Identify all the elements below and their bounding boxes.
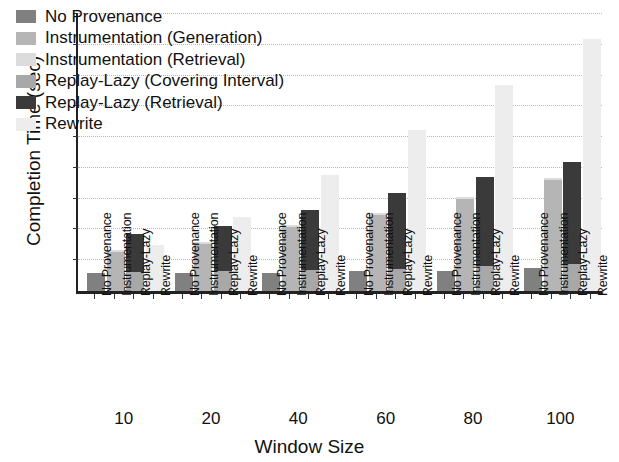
x-category-label: No Provenance — [537, 212, 551, 296]
x-category-label: No Provenance — [362, 212, 376, 296]
x-tick-mark — [269, 294, 270, 299]
x-tick-mark — [570, 294, 571, 299]
x-tick-mark — [114, 294, 115, 299]
legend-label: Replay-Lazy (Covering Interval) — [45, 71, 284, 91]
x-category-label: Replay-Lazy — [139, 229, 153, 296]
legend-item: Replay-Lazy (Retrieval) — [16, 92, 284, 114]
x-axis-title: Window Size — [0, 436, 619, 458]
x-group-label: 60 — [346, 409, 426, 429]
x-category-label: Replay-Lazy — [576, 229, 590, 296]
x-tick-mark — [376, 294, 377, 299]
x-category-label: No Provenance — [450, 212, 464, 296]
x-category-label: Rewrite — [334, 255, 348, 296]
x-category-label: Instrumentation — [120, 213, 134, 296]
x-tick-mark — [289, 294, 290, 299]
x-category-label: Rewrite — [246, 255, 260, 296]
x-tick-mark — [133, 294, 134, 299]
x-category-label: No Provenance — [100, 212, 114, 296]
legend-item: Instrumentation (Retrieval) — [16, 49, 284, 71]
x-category-label: Instrumentation — [207, 213, 221, 296]
x-category-label: No Provenance — [275, 212, 289, 296]
x-category-label: Rewrite — [159, 255, 173, 296]
chart-legend: No ProvenanceInstrumentation (Generation… — [16, 6, 284, 135]
x-tick-mark — [502, 294, 503, 299]
x-group-label: 80 — [433, 409, 513, 429]
x-category-label: Instrumentation — [382, 213, 396, 296]
legend-label: No Provenance — [45, 7, 162, 27]
x-tick-mark — [463, 294, 464, 299]
legend-swatch — [16, 96, 36, 109]
x-category-label: Replay-Lazy — [401, 229, 415, 296]
x-category-label: Replay-Lazy — [314, 229, 328, 296]
x-category-label: Instrumentation — [557, 213, 571, 296]
x-tick-mark — [240, 294, 241, 299]
legend-swatch — [16, 53, 36, 66]
x-tick-mark — [356, 294, 357, 299]
legend-swatch — [16, 75, 36, 88]
x-tick-mark — [531, 294, 532, 299]
x-group-label: 10 — [84, 409, 164, 429]
legend-label: Instrumentation (Generation) — [45, 28, 262, 48]
legend-item: No Provenance — [16, 6, 284, 28]
legend-item: Replay-Lazy (Covering Interval) — [16, 71, 284, 93]
x-tick-mark — [221, 294, 222, 299]
x-group-label: 100 — [520, 409, 600, 429]
x-category-label: Replay-Lazy — [489, 229, 503, 296]
x-tick-mark — [153, 294, 154, 299]
x-group-label: 40 — [258, 409, 338, 429]
x-category-label: Instrumentation — [295, 213, 309, 296]
x-tick-mark — [590, 294, 591, 299]
x-tick-mark — [415, 294, 416, 299]
x-tick-mark — [444, 294, 445, 299]
x-tick-mark — [94, 294, 95, 299]
x-category-label: Rewrite — [421, 255, 435, 296]
x-tick-mark — [201, 294, 202, 299]
legend-item: Rewrite — [16, 114, 284, 136]
legend-item: Instrumentation (Generation) — [16, 28, 284, 50]
x-tick-mark — [182, 294, 183, 299]
legend-swatch — [16, 32, 36, 45]
x-tick-mark — [395, 294, 396, 299]
x-group-label: 20 — [171, 409, 251, 429]
x-category-label: Rewrite — [508, 255, 522, 296]
x-tick-mark — [328, 294, 329, 299]
x-category-label: Replay-Lazy — [227, 229, 241, 296]
legend-label: Rewrite — [45, 114, 103, 134]
x-category-label: Rewrite — [596, 255, 610, 296]
x-tick-mark — [308, 294, 309, 299]
x-category-label: No Provenance — [188, 212, 202, 296]
bar-chart-figure: Completion Time (sec) 051015202530354045… — [0, 0, 619, 462]
legend-label: Replay-Lazy (Retrieval) — [45, 93, 223, 113]
x-tick-mark — [551, 294, 552, 299]
legend-swatch — [16, 118, 36, 131]
x-category-label: Instrumentation — [469, 213, 483, 296]
x-tick-mark — [483, 294, 484, 299]
legend-label: Instrumentation (Retrieval) — [45, 50, 245, 70]
legend-swatch — [16, 10, 36, 23]
